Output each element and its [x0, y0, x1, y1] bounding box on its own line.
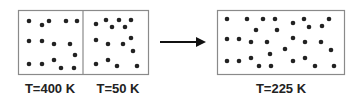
hot-temperature-label: T=400 K	[25, 81, 76, 96]
final-container-box	[218, 11, 345, 75]
particle	[72, 66, 77, 71]
particle	[225, 59, 230, 64]
particle	[261, 17, 266, 22]
gas-mixing-diagram: T=400 K T=50 K T=225 K	[0, 0, 362, 101]
initial-container	[19, 11, 149, 75]
particle	[94, 62, 99, 67]
particle	[129, 36, 134, 41]
particle	[249, 56, 254, 61]
particle	[291, 21, 296, 26]
particle	[27, 62, 32, 67]
particle	[40, 23, 45, 28]
particle	[275, 28, 280, 33]
particle	[115, 64, 120, 69]
particle	[110, 25, 115, 30]
particle	[327, 17, 332, 22]
particle	[47, 19, 52, 24]
particle	[268, 52, 273, 57]
particle	[73, 53, 78, 58]
particle	[129, 18, 134, 23]
final-temperature-label: T=225 K	[256, 81, 307, 96]
particle	[269, 64, 274, 69]
particle	[237, 37, 242, 42]
particle	[307, 25, 312, 30]
particle	[27, 19, 32, 24]
particle	[225, 37, 230, 42]
particle	[245, 17, 250, 22]
particle	[313, 64, 318, 69]
particle	[40, 39, 45, 44]
particle	[283, 47, 288, 52]
particle	[249, 40, 254, 45]
particle	[291, 59, 296, 64]
particle	[106, 42, 111, 47]
particle	[320, 24, 325, 29]
right-arrow-icon	[160, 37, 206, 47]
particle	[117, 18, 122, 23]
particle	[123, 25, 128, 30]
cold-temperature-label: T=50 K	[97, 81, 141, 96]
particle	[254, 28, 259, 33]
particle	[225, 17, 230, 22]
particle	[291, 36, 296, 41]
particle	[27, 39, 32, 44]
particle	[40, 62, 45, 67]
final-container	[218, 11, 345, 75]
particle	[104, 18, 109, 23]
particle	[332, 64, 337, 69]
particle	[75, 19, 80, 24]
particle	[94, 38, 99, 43]
particle	[319, 40, 324, 45]
particle	[329, 48, 334, 53]
particle	[303, 56, 308, 61]
particle	[135, 64, 140, 69]
particle	[106, 58, 111, 63]
particle	[273, 17, 278, 22]
particle	[121, 42, 126, 47]
particle	[68, 42, 73, 47]
particle	[94, 22, 99, 27]
particle	[302, 17, 307, 22]
particle	[52, 42, 57, 47]
particle	[303, 40, 308, 45]
particle	[131, 49, 136, 54]
particle	[64, 19, 69, 24]
particle	[265, 40, 270, 45]
particle	[237, 59, 242, 64]
particle	[257, 64, 262, 69]
particle	[59, 66, 64, 71]
particle	[52, 58, 57, 63]
